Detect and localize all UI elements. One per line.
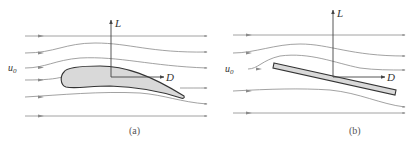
streamline xyxy=(248,55,405,70)
streamline xyxy=(233,44,405,56)
drag-label: D xyxy=(165,71,174,83)
panel-b: L D u0 (b) xyxy=(225,7,405,137)
lift-label: L xyxy=(114,17,121,29)
panel-a: L D u0 (a) xyxy=(8,17,207,137)
caption-b: (b) xyxy=(349,125,361,137)
freestream-label: u0 xyxy=(225,63,234,76)
diagram-canvas: L D u0 (a) xyxy=(0,0,420,149)
freestream-label: u0 xyxy=(8,62,17,75)
caption-a: (a) xyxy=(129,125,140,137)
streamline xyxy=(25,43,207,53)
lift-label: L xyxy=(336,7,343,19)
streamline xyxy=(25,58,207,68)
drag-label: D xyxy=(386,71,395,83)
lift-drag-figure: L D u0 (a) xyxy=(0,0,420,149)
